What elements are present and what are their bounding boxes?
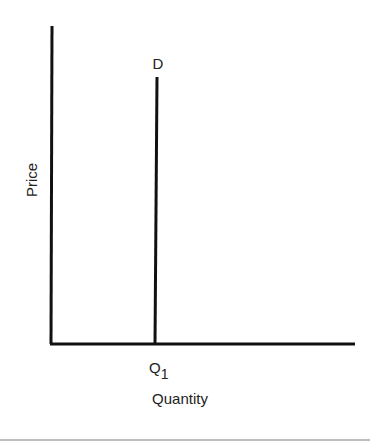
y-axis bbox=[51, 26, 52, 344]
x-axis-label: Quantity bbox=[152, 390, 208, 407]
demand-label: D bbox=[153, 55, 164, 72]
y-axis-label: Price bbox=[23, 163, 40, 197]
q1-main: Q bbox=[149, 359, 161, 376]
q1-tick-label: Q1 bbox=[149, 359, 169, 382]
q1-subscript: 1 bbox=[161, 366, 169, 382]
demand-curve bbox=[155, 77, 157, 344]
demand-chart: D Q1 Quantity Price bbox=[0, 0, 370, 441]
